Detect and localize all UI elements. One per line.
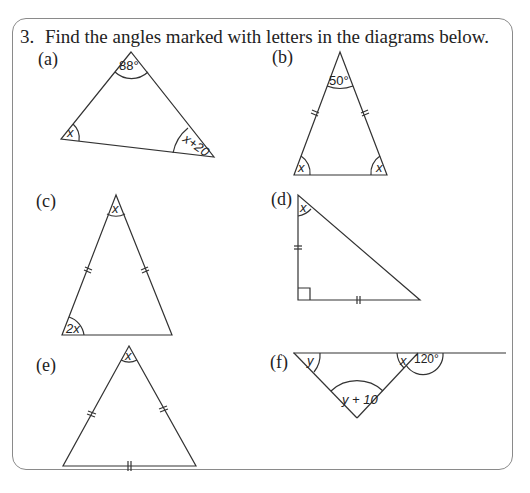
- triangle-d: [294, 195, 420, 304]
- angle-label-f-x: x: [399, 353, 407, 368]
- angle-label-c-x: x: [111, 201, 119, 216]
- triangle-b: [294, 52, 387, 175]
- angle-label-e-x: x: [124, 348, 132, 363]
- angle-label-f-y: y: [306, 353, 315, 368]
- angle-label-a-88: 88°: [119, 58, 139, 73]
- angle-label-a-x: x: [66, 125, 74, 140]
- diagrams-canvas: 88° x x+20 50° x x x 2x x x y x 120° y +…: [0, 0, 530, 493]
- angle-label-b-x-right: x: [375, 160, 383, 175]
- angle-label-b-50: 50°: [329, 73, 349, 88]
- angle-label-f-y10: y + 10: [341, 392, 379, 407]
- angle-label-b-x-left: x: [297, 160, 305, 175]
- angle-label-d-x: x: [299, 200, 307, 215]
- triangle-e: [63, 346, 196, 471]
- triangle-c: [62, 195, 172, 335]
- angle-label-f-120: 120°: [414, 352, 439, 366]
- angle-label-c-2x: 2x: [65, 321, 80, 336]
